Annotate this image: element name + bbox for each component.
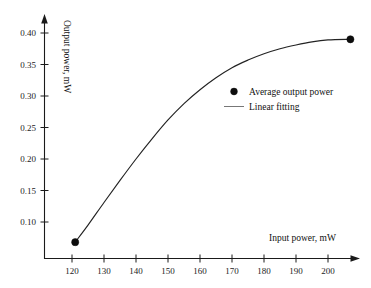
data-point-marker: [347, 36, 354, 43]
y-tick-label-0.15: 0.15: [20, 186, 36, 196]
legend-marker-filled-circle: [231, 88, 238, 95]
y-tick-label-0.25: 0.25: [20, 123, 36, 133]
x-tick-label-190: 190: [289, 266, 303, 276]
legend-label-linear-fitting: Linear fitting: [249, 102, 300, 112]
chart-background: [0, 0, 371, 288]
y-tick-label-0.40: 0.40: [20, 28, 36, 38]
x-axis-tick-labels: 120 130 140 150 160 170 180 190 200: [65, 266, 335, 276]
x-tick-label-130: 130: [97, 266, 111, 276]
chart-figure: 0.40 0.35 0.30 0.25 0.20 0.15 0.10 Outpu…: [0, 0, 371, 288]
x-tick-label-200: 200: [321, 266, 335, 276]
x-tick-label-140: 140: [129, 266, 143, 276]
y-tick-label-0.35: 0.35: [20, 60, 36, 70]
y-axis-title: Output power, mW: [62, 20, 72, 93]
y-tick-label-0.30: 0.30: [20, 91, 36, 101]
x-tick-label-180: 180: [257, 266, 271, 276]
y-tick-label-0.20: 0.20: [20, 154, 36, 164]
data-point-marker: [72, 239, 79, 246]
x-axis-title: Input power, mW: [269, 233, 336, 243]
y-tick-label-0.10: 0.10: [20, 217, 36, 227]
legend-label-average-output-power: Average output power: [249, 87, 334, 97]
x-tick-label-120: 120: [65, 266, 79, 276]
x-tick-label-170: 170: [225, 266, 239, 276]
x-tick-label-150: 150: [161, 266, 175, 276]
x-tick-label-160: 160: [193, 266, 207, 276]
output-power-vs-input-power-chart: 0.40 0.35 0.30 0.25 0.20 0.15 0.10 Outpu…: [0, 0, 371, 288]
